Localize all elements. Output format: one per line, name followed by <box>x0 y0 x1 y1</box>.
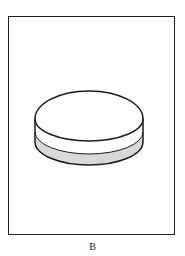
cylinder-illustration <box>0 0 185 256</box>
figure-label: B <box>0 241 185 252</box>
cylinder-top-face <box>35 91 143 141</box>
